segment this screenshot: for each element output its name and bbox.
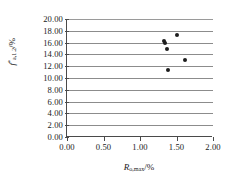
y-axis-tick [65,102,69,103]
x-axis-tick [104,137,105,141]
gridline-horizontal [67,90,213,91]
x-axis-tick-label: 2.00 [205,143,220,152]
scatter-chart-figure: f*a,1.2/% Ro,max/% 0.002.004.006.008.001… [0,0,230,186]
y-axis-tick [65,54,69,55]
x-axis-title: Ro,max/% [66,163,212,172]
gridline-horizontal [67,19,213,20]
gridline-horizontal [67,113,213,114]
x-axis-tick-label: 0.50 [96,143,111,152]
y-axis-tick-label: 12.00 [43,62,63,71]
x-axis-tick-label: 0.00 [59,143,74,152]
data-point-marker [166,68,170,72]
y-axis-tick-label: 18.00 [43,27,63,36]
y-axis-symbol: f [7,63,17,66]
x-axis-tick-label: 1.50 [169,143,184,152]
y-axis-tick-label: 16.00 [43,38,63,47]
y-axis-tick [65,125,69,126]
data-point-marker [175,33,179,37]
y-axis-tick [65,113,69,114]
y-axis-tick [65,66,69,67]
gridline-horizontal [67,102,213,103]
y-axis-tick-label: 2.00 [48,121,63,130]
x-axis-tick [140,137,141,141]
gridline-horizontal [67,43,213,44]
y-axis-tick [65,19,69,20]
x-axis-tick-label: 1.00 [132,143,147,152]
gridline-horizontal [67,31,213,32]
y-axis-unit: /% [7,38,17,48]
gridline-horizontal [67,66,213,67]
gridline-horizontal [67,78,213,79]
y-axis-tick-label: 6.00 [48,97,63,106]
y-axis-tick [65,31,69,32]
y-axis-tick [65,78,69,79]
y-axis-superscript: * [7,60,13,63]
data-point-marker [183,58,187,62]
x-axis-tick [213,137,214,141]
y-axis-subscript: a,1.2 [11,48,17,60]
gridline-horizontal [67,125,213,126]
y-axis-tick [65,90,69,91]
x-axis-tick [177,137,178,141]
y-axis-tick-label: 10.00 [43,74,63,83]
y-axis-tick-label: 0.00 [48,133,63,142]
x-axis-tick [67,137,68,141]
y-axis-tick-label: 14.00 [43,50,63,59]
x-axis-unit: /% [144,162,154,172]
y-axis-tick [65,43,69,44]
y-axis-tick-label: 4.00 [48,109,63,118]
y-axis-tick-label: 20.00 [43,15,63,24]
x-axis-subscript: o,max [129,166,144,172]
gridline-horizontal [67,54,213,55]
plot-area: 0.002.004.006.008.0010.0012.0014.0016.00… [66,19,212,137]
data-point-marker [165,47,169,51]
data-point-marker [163,41,167,45]
y-axis-tick-label: 8.00 [48,86,63,95]
y-axis-title: f*a,1.2/% [7,45,18,65]
